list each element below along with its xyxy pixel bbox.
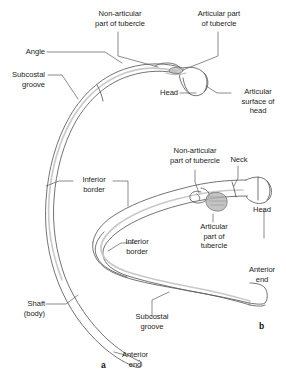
label-articular-part-of-tubercle-mid: Articular part of tubercle: [190, 222, 238, 251]
leader-subcostal-groove-left: [48, 75, 78, 99]
label-non-articular-part-of-tubercle-top: Non-articular part of tubercle: [84, 9, 156, 28]
label-subcostal-groove-bottom: Subcostal groove: [126, 312, 178, 331]
rib-b-anterior-end-edge: [250, 305, 265, 306]
label-shaft-body: Shaft (body): [2, 299, 45, 318]
leader-neck: [234, 166, 238, 186]
leader-shaft-body: [46, 295, 78, 304]
label-articular-surface-of-head: Articular surface of head: [232, 87, 284, 116]
label-anterior-end-bottom: Anterior end: [113, 350, 157, 369]
rib-b-anterior-end: [249, 283, 267, 304]
leader-non-articular-tubercle-mid: [195, 170, 199, 193]
label-inferior-border-1: Inferior border: [74, 175, 114, 194]
leader-articular-surface-of-head: [206, 86, 231, 93]
rib-a-articular-tubercle-facet: [169, 67, 183, 73]
label-head-top: Head: [148, 88, 178, 98]
label-inferior-border-2: Inferior border: [117, 237, 157, 256]
leader-inferior-border-1-right: [113, 181, 128, 206]
label-subcostal-groove-left: Subcostal groove: [0, 70, 45, 89]
panel-letter-b: b: [259, 321, 264, 331]
label-head-right: Head: [253, 205, 283, 215]
label-neck: Neck: [225, 155, 253, 165]
label-anterior-end-right: Anterior end: [240, 265, 284, 284]
leader-articular-tubercle-top: [183, 32, 218, 70]
label-angle: Angle: [2, 47, 45, 57]
leader-non-articular-tubercle-top: [118, 32, 158, 67]
rib-anatomy-figure: Non-articular part of tubercle Articular…: [0, 0, 286, 387]
rib-b-articular-tubercle-facet: [206, 192, 227, 211]
label-non-articular-part-of-tubercle-mid: Non-articular part of tubercle: [158, 146, 232, 165]
leader-angle: [47, 52, 122, 63]
label-articular-part-of-tubercle-top: Articular part of tubercle: [185, 9, 253, 28]
panel-letter-a: a: [101, 360, 106, 370]
